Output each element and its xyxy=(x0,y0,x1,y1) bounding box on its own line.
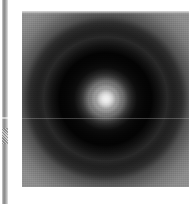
screenshot-root xyxy=(0,0,195,204)
central-core xyxy=(89,82,123,116)
margin-top xyxy=(8,0,195,11)
margin-bottom xyxy=(8,187,195,204)
margin-gutter xyxy=(8,0,22,204)
plate-top-edge-band xyxy=(22,11,189,14)
radial-pattern-image[interactable] xyxy=(22,11,189,187)
horizontal-scanline-artifact xyxy=(22,118,189,119)
margin-right xyxy=(189,0,195,204)
